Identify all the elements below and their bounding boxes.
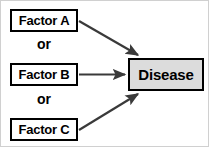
node-factor-b-label: Factor B bbox=[18, 68, 69, 81]
node-factor-a-label: Factor A bbox=[19, 14, 70, 27]
node-factor-b: Factor B bbox=[10, 63, 78, 86]
node-factor-a: Factor A bbox=[10, 9, 78, 32]
edge-factor-c-to-disease bbox=[79, 94, 138, 130]
connector-label-or-2: or bbox=[10, 92, 78, 106]
node-factor-c: Factor C bbox=[10, 118, 78, 141]
diagram-canvas: Factor A or Factor B or Factor C Disease bbox=[0, 0, 209, 147]
edge-factor-a-to-disease bbox=[79, 21, 138, 55]
node-factor-c-label: Factor C bbox=[18, 123, 69, 136]
node-disease: Disease bbox=[128, 58, 204, 91]
connector-label-or-1: or bbox=[10, 37, 78, 51]
node-disease-label: Disease bbox=[138, 67, 193, 82]
